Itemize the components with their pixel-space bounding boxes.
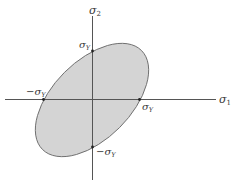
point-top (91, 50, 94, 53)
top-intercept-label: σY (79, 39, 91, 52)
sigma2-label: σ2 (89, 4, 101, 18)
point-right (138, 98, 141, 101)
sigma1-label: σ1 (219, 93, 231, 107)
right-intercept-label: σY (142, 101, 154, 114)
yield-locus-diagram: σ2 σ1 σY −σY σY −σY (0, 0, 235, 180)
point-bottom (91, 146, 94, 149)
bottom-intercept-label: −σY (96, 146, 116, 159)
left-intercept-label: −σY (26, 86, 46, 99)
